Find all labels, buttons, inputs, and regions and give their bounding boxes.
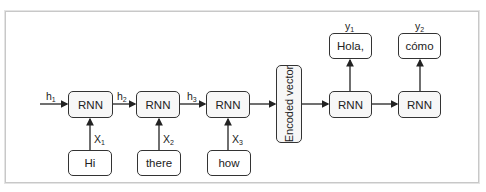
rnn-label: RNN [146,99,171,111]
figure-caption-clipped [5,188,305,192]
encoder-rnn-cell-2: RNN [136,91,180,118]
encoder-rnn-cell-3: RNN [206,91,250,118]
rnn-label: RNN [216,99,241,111]
decoder-rnn-cell-1: RNN [329,91,372,118]
hidden-label-h2: h2 [117,91,127,103]
output-word-como: cómo [398,33,441,59]
output-label-y2: y2 [415,21,424,33]
hidden-label-h1: h1 [46,91,56,103]
encoder-rnn-cell-1: RNN [68,91,113,118]
decoder-rnn-cell-2: RNN [398,91,441,118]
output-word-hola: Hola, [329,33,372,59]
input-label-x2: X2 [163,134,174,146]
hidden-label-h3: h3 [187,91,197,103]
rnn-label: RNN [338,99,363,111]
input-label-x1: X1 [94,134,105,146]
encoded-vector-box: Encoded vector [276,65,302,143]
output-label-y1: y1 [345,21,354,33]
input-word-there: there [137,150,181,176]
input-word-hi: Hi [68,150,112,176]
rnn-label: RNN [78,99,103,111]
input-word-how: how [207,150,251,176]
input-label-x3: X3 [232,134,243,146]
rnn-label: RNN [407,99,432,111]
